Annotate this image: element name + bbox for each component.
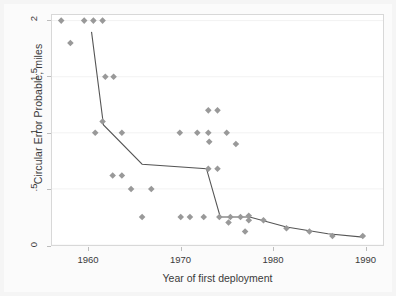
x-tickmark bbox=[366, 247, 367, 251]
data-point-marker bbox=[225, 219, 232, 226]
data-point-marker bbox=[67, 40, 74, 47]
data-point-marker bbox=[260, 217, 267, 224]
x-tick-label: 1960 bbox=[68, 254, 108, 265]
data-point-marker bbox=[177, 130, 184, 137]
scatter-points bbox=[58, 17, 366, 239]
data-point-marker bbox=[214, 165, 221, 172]
x-tick-label: 1990 bbox=[346, 254, 386, 265]
data-point-marker bbox=[128, 186, 135, 193]
x-tickmark bbox=[273, 247, 274, 251]
data-point-marker bbox=[102, 73, 109, 80]
x-tickmark bbox=[181, 247, 182, 251]
x-axis-label: Year of first deployment bbox=[51, 272, 384, 284]
data-point-marker bbox=[92, 130, 99, 137]
data-point-marker bbox=[242, 228, 249, 235]
data-point-marker bbox=[216, 214, 223, 221]
x-tickmark bbox=[88, 247, 89, 251]
y-tick-label: .5 bbox=[28, 177, 39, 199]
data-point-marker bbox=[205, 130, 212, 137]
data-point-marker bbox=[58, 17, 65, 24]
data-point-marker bbox=[109, 172, 116, 179]
plot-area bbox=[51, 14, 384, 246]
figure-canvas: Circular Error Probable, miles Year of f… bbox=[4, 4, 392, 292]
chart-figure: Circular Error Probable, miles Year of f… bbox=[0, 0, 396, 296]
data-point-marker bbox=[81, 17, 88, 24]
data-point-marker bbox=[99, 17, 106, 24]
y-tickmark bbox=[47, 246, 51, 247]
data-point-marker bbox=[99, 118, 106, 125]
x-tick-label: 1970 bbox=[161, 254, 201, 265]
data-point-marker bbox=[306, 228, 313, 235]
data-point-marker bbox=[194, 130, 201, 137]
plot-svg bbox=[52, 15, 383, 245]
data-point-marker bbox=[205, 165, 212, 172]
data-point-marker bbox=[223, 130, 230, 137]
data-point-marker bbox=[119, 172, 126, 179]
data-point-marker bbox=[206, 139, 213, 146]
data-point-marker bbox=[237, 214, 244, 221]
data-point-marker bbox=[205, 107, 212, 114]
x-tick-label: 1980 bbox=[253, 254, 293, 265]
data-point-marker bbox=[187, 214, 194, 221]
data-point-marker bbox=[148, 186, 155, 193]
data-point-marker bbox=[177, 214, 184, 221]
data-point-marker bbox=[110, 73, 117, 80]
data-point-marker bbox=[119, 130, 126, 137]
data-point-marker bbox=[227, 214, 234, 221]
data-point-marker bbox=[214, 107, 221, 114]
data-point-marker bbox=[245, 217, 252, 224]
data-point-marker bbox=[200, 214, 207, 221]
data-point-marker bbox=[139, 214, 146, 221]
y-tick-label: 1.5 bbox=[28, 64, 39, 86]
y-tick-label: 1 bbox=[28, 120, 39, 142]
data-point-marker bbox=[90, 17, 97, 24]
gridlines bbox=[52, 21, 383, 245]
data-point-marker bbox=[359, 233, 366, 240]
y-tick-label: 2 bbox=[28, 7, 39, 29]
y-tick-label: 0 bbox=[28, 234, 39, 256]
data-point-marker bbox=[233, 141, 240, 148]
